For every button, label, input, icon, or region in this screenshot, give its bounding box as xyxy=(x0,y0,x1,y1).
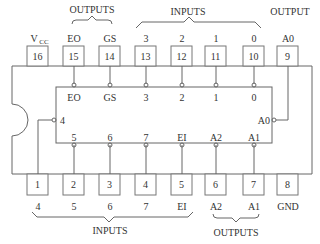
pin-2-number: 2 xyxy=(71,179,76,190)
inner-chip-block xyxy=(56,87,272,143)
brace-bottom-inputs xyxy=(32,212,193,222)
inner-label-eo: EO xyxy=(67,92,80,103)
top-pin-16-label: V xyxy=(30,33,38,44)
top-pin-15-label: EO xyxy=(67,33,80,44)
inner-label-2: 2 xyxy=(180,92,185,103)
inner-label-gs: GS xyxy=(104,92,117,103)
bottom-pin-boxes xyxy=(27,174,298,195)
ic-pinout-diagram: OUTPUTS INPUTS OUTPUT V CC EO GS 3 2 1 0… xyxy=(0,0,320,244)
top-pin-9-label: A0 xyxy=(282,33,294,44)
bottom-pin-4-label: 7 xyxy=(144,201,149,212)
inner-label-3: 3 xyxy=(144,92,149,103)
inner-label-ei: EI xyxy=(177,132,186,143)
pin-12-number: 12 xyxy=(177,51,187,62)
top-pin-12-label: 2 xyxy=(180,33,185,44)
bottom-pin-6-label: A2 xyxy=(210,201,222,212)
inner-label-5: 5 xyxy=(72,132,77,143)
inner-label-7: 7 xyxy=(144,132,149,143)
label-top-outputs: OUTPUTS xyxy=(69,4,114,15)
inner-label-0: 0 xyxy=(252,92,257,103)
pin-1-number: 1 xyxy=(35,179,40,190)
pin-3-number: 3 xyxy=(107,179,112,190)
top-pin-13-label: 3 xyxy=(144,33,149,44)
pin-8-number: 8 xyxy=(285,179,290,190)
brace-top-outputs xyxy=(72,16,112,24)
pin-16-number: 16 xyxy=(33,51,43,62)
top-pin-11-label: 1 xyxy=(214,33,219,44)
inner-label-a1: A1 xyxy=(248,132,260,143)
top-bubbles xyxy=(72,83,276,122)
pin-4-number: 4 xyxy=(143,179,148,190)
inner-label-1: 1 xyxy=(214,92,219,103)
pin-7-number: 7 xyxy=(251,179,256,190)
top-pin-10-label: 0 xyxy=(252,33,257,44)
bottom-pin-5-label: EI xyxy=(177,201,186,212)
inner-label-6: 6 xyxy=(108,132,113,143)
label-top-output: OUTPUT xyxy=(270,6,309,17)
pin-6-number: 6 xyxy=(213,179,218,190)
inner-label-a0: A0 xyxy=(258,115,270,126)
pin-11-number: 11 xyxy=(211,51,221,62)
bottom-pin-3-label: 6 xyxy=(108,201,113,212)
pin-5-number: 5 xyxy=(179,179,184,190)
inner-label-a2: A2 xyxy=(210,132,222,143)
label-bottom-inputs: INPUTS xyxy=(92,225,127,236)
label-bottom-outputs: OUTPUTS xyxy=(213,227,258,238)
brace-top-inputs xyxy=(136,17,261,28)
pin-15-number: 15 xyxy=(69,51,79,62)
top-pin-14-label: GS xyxy=(104,33,117,44)
pin-14-number: 14 xyxy=(105,51,115,62)
bottom-pin-1-label: 4 xyxy=(36,201,41,212)
label-top-inputs: INPUTS xyxy=(170,6,205,17)
brace-bottom-outputs xyxy=(213,214,259,222)
pin-13-number: 13 xyxy=(141,51,151,62)
bottom-pin-8-label: GND xyxy=(277,201,299,212)
pin-10-number: 10 xyxy=(249,51,259,62)
inner-label-4: 4 xyxy=(60,115,65,126)
bottom-pin-2-label: 5 xyxy=(72,201,77,212)
bottom-pin-7-label: A1 xyxy=(248,201,260,212)
top-pin-16-label-sub: CC xyxy=(39,38,49,46)
pin-9-number: 9 xyxy=(285,51,290,62)
